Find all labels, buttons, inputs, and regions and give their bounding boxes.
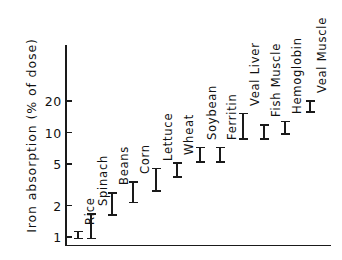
point-label-beans: Beans bbox=[117, 146, 131, 185]
y-tick-label-2: 2 bbox=[30, 198, 62, 213]
error-bar-cap-lower bbox=[74, 238, 83, 240]
error-bar-cap-lower bbox=[239, 138, 248, 140]
error-bar-cap-upper bbox=[173, 162, 182, 164]
error-bar-cap-lower bbox=[281, 133, 290, 135]
error-bar-stem bbox=[90, 213, 92, 239]
error-bar-cap-lower bbox=[306, 111, 315, 113]
error-bar-cap-upper bbox=[196, 147, 205, 149]
error-bar-cap-upper bbox=[74, 231, 83, 233]
point-label-hemoglobin: Hemoglobin bbox=[290, 37, 304, 114]
y-tick-10 bbox=[66, 132, 72, 134]
error-bar-cap-lower bbox=[129, 202, 138, 204]
point-label-lettuce: Lettuce bbox=[161, 112, 175, 160]
error-bar-ferritin bbox=[214, 147, 226, 163]
error-bar-soybean bbox=[194, 147, 206, 163]
error-bar-hemoglobin bbox=[279, 121, 291, 135]
error-bar-cap-lower bbox=[152, 190, 161, 192]
error-bar-stem bbox=[111, 192, 113, 216]
error-bar-stem bbox=[155, 168, 157, 192]
error-bar-cap-upper bbox=[216, 147, 225, 149]
error-bar-cap-lower bbox=[260, 138, 269, 140]
error-bar-veal-liver bbox=[237, 113, 249, 140]
y-tick-label-5: 5 bbox=[30, 156, 62, 171]
error-bar-cap-lower bbox=[108, 214, 117, 216]
error-bar-cap-upper bbox=[152, 168, 161, 170]
error-bar-cap-lower bbox=[87, 238, 96, 240]
y-tick-20 bbox=[66, 100, 72, 102]
point-label-veal-muscle: Veal Muscle bbox=[315, 17, 329, 93]
y-tick-label-1: 1 bbox=[30, 230, 62, 245]
error-bar-cap-lower bbox=[216, 161, 225, 163]
error-bar-stem bbox=[242, 113, 244, 140]
point-label-fish-muscle: Fish Muscle bbox=[269, 43, 283, 117]
y-tick-label-10: 10 bbox=[30, 125, 62, 140]
iron-absorption-chart: Iron absorption (% of dose) 2010521 Rice… bbox=[0, 0, 342, 260]
error-bar-cap-upper bbox=[239, 113, 248, 115]
point-label-soybean: Soybean bbox=[205, 85, 219, 140]
error-bar-cap-upper bbox=[260, 124, 269, 126]
error-bar-cap-lower bbox=[173, 176, 182, 178]
error-bar-cap-upper bbox=[281, 121, 290, 123]
y-tick-5 bbox=[66, 163, 72, 165]
error-bar-cap-upper bbox=[108, 192, 117, 194]
y-tick-2 bbox=[66, 205, 72, 207]
y-tick-label-20: 20 bbox=[30, 94, 62, 109]
error-bar-cap-upper bbox=[129, 181, 138, 183]
error-bar-wheat bbox=[171, 162, 183, 177]
error-bar-corn bbox=[127, 181, 139, 203]
error-bar-rice bbox=[72, 231, 84, 240]
error-bar-cap-lower bbox=[196, 161, 205, 163]
error-bar-spinach bbox=[85, 213, 97, 239]
error-bar-fish-muscle bbox=[258, 124, 270, 140]
y-axis-line bbox=[65, 45, 67, 246]
error-bar-lettuce bbox=[150, 168, 162, 192]
error-bar-cap-upper bbox=[87, 213, 96, 215]
error-bar-beans bbox=[106, 192, 118, 216]
error-bar-cap-upper bbox=[306, 100, 315, 102]
point-label-veal-liver: Veal Liver bbox=[248, 42, 262, 106]
error-bar-veal-muscle bbox=[304, 100, 316, 113]
x-axis-line bbox=[65, 245, 331, 247]
error-bar-stem bbox=[132, 181, 134, 203]
